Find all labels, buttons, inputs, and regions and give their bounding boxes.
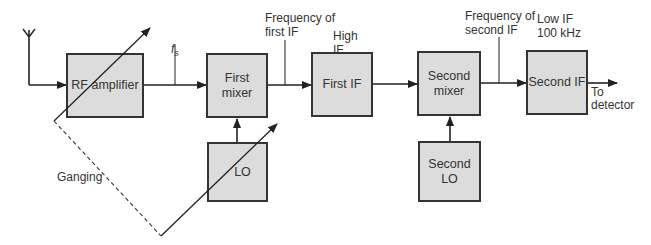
- rf-tuning-arrow-icon: [54, 28, 150, 121]
- freq-first-if-label: Frequency of first IF: [265, 11, 335, 39]
- to-detector-label: To detector: [591, 86, 634, 112]
- fs-label-sub: s: [174, 48, 179, 58]
- fs-label: fs: [171, 28, 179, 60]
- ganging-label: Ganging: [57, 170, 102, 184]
- low-if-label: Low IF 100 kHz: [537, 12, 581, 40]
- receiver-block-diagram: RF amplifier First mixer LO First IF Sec…: [0, 0, 651, 245]
- freq-second-if-label: Frequency of second IF: [465, 9, 535, 37]
- lo-tuning-arrow-icon: [161, 124, 277, 236]
- high-if-label: High IF: [333, 29, 358, 57]
